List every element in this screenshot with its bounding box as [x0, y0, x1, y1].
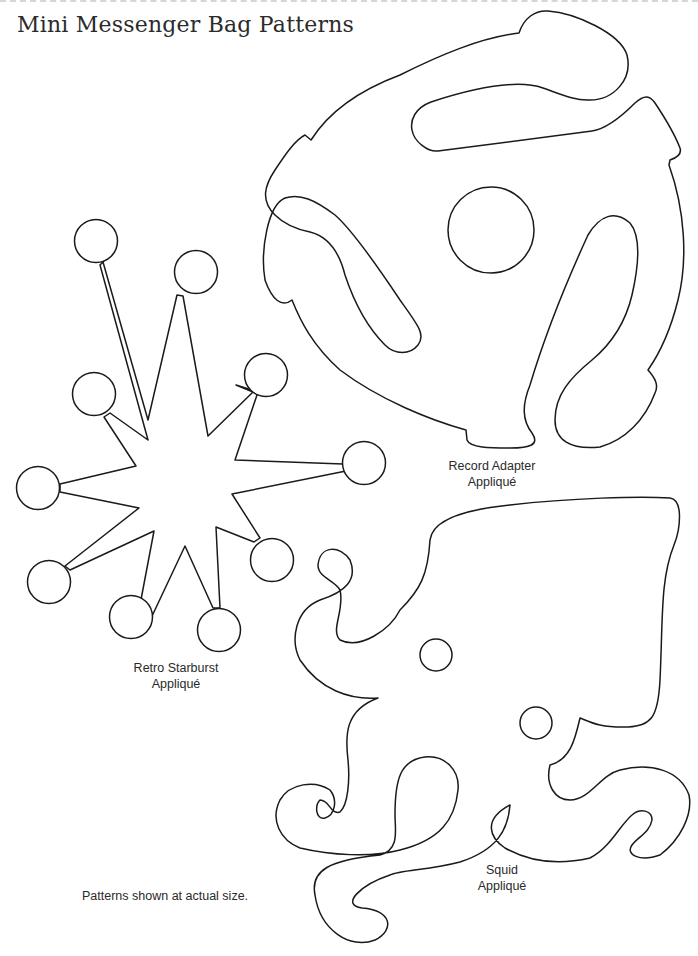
squid-label: Squid Appliqué: [462, 862, 542, 894]
retro-starburst-label-line1: Retro Starburst: [116, 660, 236, 676]
squid-label-line1: Squid: [462, 862, 542, 878]
record-adapter-shape: [264, 11, 684, 448]
squid-eye-2: [520, 707, 552, 739]
record-adapter-label-line1: Record Adapter: [432, 458, 552, 474]
retro-starburst-label-line2: Appliqué: [116, 676, 236, 692]
record-adapter-label: Record Adapter Appliqué: [432, 458, 552, 490]
squid-label-line2: Appliqué: [462, 878, 542, 894]
pattern-artwork: [0, 0, 698, 956]
pattern-page: Mini Messenger Bag Patterns: [0, 0, 698, 956]
record-adapter-label-line2: Appliqué: [432, 474, 552, 490]
actual-size-note: Patterns shown at actual size.: [82, 889, 248, 903]
squid-eye-1: [420, 639, 452, 671]
record-adapter-center-hole: [448, 187, 534, 273]
retro-starburst-label: Retro Starburst Appliqué: [116, 660, 236, 692]
